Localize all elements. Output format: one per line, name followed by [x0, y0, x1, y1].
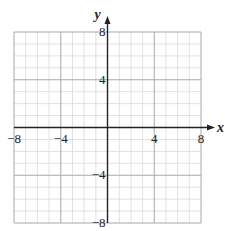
x-tick-label: 4 — [151, 131, 158, 146]
x-tick-label: 8 — [198, 131, 205, 146]
y-tick-label: −8 — [92, 215, 106, 230]
x-tick-label: −8 — [7, 131, 21, 146]
x-axis-label: x — [216, 120, 224, 135]
y-tick-label: 8 — [99, 24, 106, 39]
x-tick-label: −4 — [54, 131, 68, 146]
y-tick-label: 4 — [99, 72, 106, 87]
y-tick-label: −4 — [92, 167, 106, 182]
x-axis-arrow-icon — [207, 125, 215, 131]
coordinate-plane: xy−8−44884−4−8 — [0, 0, 228, 231]
y-axis-label: y — [93, 7, 102, 22]
y-axis-arrow-icon — [105, 16, 111, 24]
